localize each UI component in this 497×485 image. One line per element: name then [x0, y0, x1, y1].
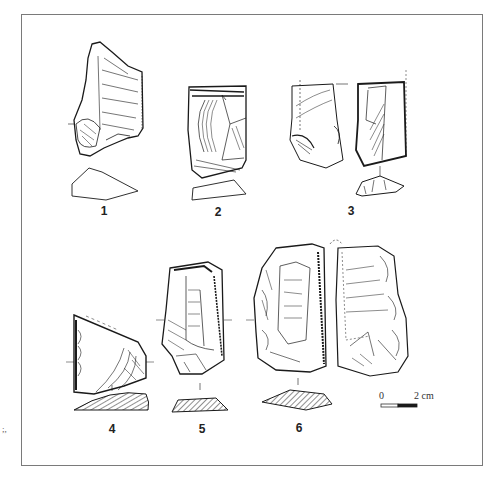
- artifact-drawings: [0, 0, 497, 485]
- artifact-4-drawing: [66, 315, 154, 410]
- artifact-4-label: 4: [109, 422, 116, 436]
- artifact-1-drawing: [68, 42, 143, 200]
- artifact-3-label: 3: [348, 204, 355, 218]
- artifact-1-label: 1: [101, 204, 108, 218]
- artifact-5-drawing: [156, 262, 232, 412]
- artifact-6-label: 6: [296, 421, 303, 435]
- artifact-6-view-b-drawing: [330, 240, 408, 376]
- artifact-3-view-a-drawing: [290, 80, 348, 168]
- artifact-5-label: 5: [199, 422, 206, 436]
- scale-start-label: 0: [379, 390, 384, 401]
- scale-bar: [381, 404, 417, 407]
- artifact-3-view-b-drawing: [356, 70, 406, 196]
- artifact-2-drawing: [188, 86, 246, 200]
- scale-end-label: 2 cm: [414, 390, 434, 401]
- artifact-6-view-a-drawing: [246, 244, 332, 410]
- artifact-2-label: 2: [215, 205, 222, 219]
